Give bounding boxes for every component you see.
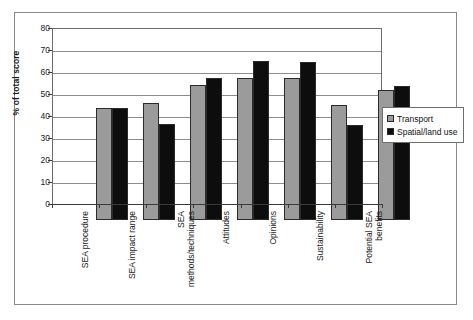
y-tick-label: 10 xyxy=(20,177,50,187)
bar-group xyxy=(231,44,278,220)
figure-frame: % of total score 80706050403020100 SEA p… xyxy=(14,12,457,305)
x-axis-category-label: Potential SEA benefits xyxy=(364,211,384,303)
bar-group xyxy=(279,44,326,220)
x-axis-category-label: SEA procedure xyxy=(80,211,90,303)
bar-group xyxy=(184,44,231,220)
legend-swatch-transport xyxy=(387,115,394,122)
legend-label: Spatial/land use xyxy=(397,127,458,137)
legend-item: Transport xyxy=(387,112,458,125)
y-tick-label: 40 xyxy=(20,111,50,121)
chart-legend: TransportSpatial/land use xyxy=(382,107,464,143)
x-axis-category-label: SEA impact range xyxy=(127,211,137,303)
x-axis-category-label: Attitudes xyxy=(221,211,231,303)
x-tick-mark xyxy=(335,204,336,208)
x-axis-category-label: Sustainability xyxy=(315,211,325,303)
bar xyxy=(284,78,300,220)
bar-group xyxy=(90,44,137,220)
bar xyxy=(190,85,206,220)
x-axis-category-label: Opinions xyxy=(268,211,278,303)
bar xyxy=(143,103,159,220)
x-tick-mark xyxy=(288,204,289,208)
bar xyxy=(331,105,347,221)
x-tick-mark xyxy=(146,204,147,208)
bar xyxy=(300,62,316,220)
x-tick-mark xyxy=(193,204,194,208)
x-axis-labels: SEA procedureSEA impact rangeSEA methods… xyxy=(52,211,382,306)
x-axis-ticks xyxy=(52,204,382,209)
bar-group xyxy=(137,44,184,220)
bar xyxy=(206,78,222,220)
x-tick-mark xyxy=(52,204,53,208)
y-tick-label: 30 xyxy=(20,133,50,143)
legend-label: Transport xyxy=(397,114,433,124)
y-tick-label: 70 xyxy=(20,45,50,55)
bar-group xyxy=(326,44,373,220)
x-tick-mark xyxy=(382,204,383,208)
x-tick-mark xyxy=(99,204,100,208)
bar xyxy=(237,78,253,220)
bar xyxy=(394,86,410,220)
x-axis-category-label: SEA methods/techniques xyxy=(176,211,196,303)
y-tick-label: 50 xyxy=(20,89,50,99)
y-tick-label: 20 xyxy=(20,155,50,165)
plot-area xyxy=(52,28,382,204)
y-axis-ticks: 80706050403020100 xyxy=(15,28,50,204)
bars-layer xyxy=(90,44,420,220)
legend-swatch-spatial xyxy=(387,128,394,135)
y-tick-label: 80 xyxy=(20,23,50,33)
bar xyxy=(253,61,269,221)
legend-item: Spatial/land use xyxy=(387,125,458,138)
y-tick-label: 60 xyxy=(20,67,50,77)
y-tick-label: 0 xyxy=(20,199,50,209)
x-tick-mark xyxy=(241,204,242,208)
